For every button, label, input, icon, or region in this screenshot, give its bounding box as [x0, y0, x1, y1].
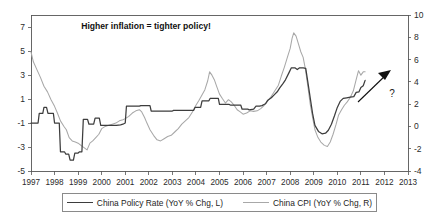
x-tick-label: 2004 [187, 178, 206, 187]
x-tick-label: 2007 [258, 178, 277, 187]
right-tick-label: 8 [414, 32, 419, 42]
left-tick-label: 1 [20, 94, 25, 104]
left-tick-label: 7 [20, 22, 25, 32]
x-tick-label: 2008 [281, 178, 300, 187]
right-tick-label: 4 [414, 77, 419, 87]
x-tick-label: 1998 [45, 178, 64, 187]
chart-container: 7531-1-3-5 1086420-2-4 19971998199920002… [0, 0, 439, 221]
x-tick-label: 2009 [305, 178, 324, 187]
x-tick-label: 1999 [69, 178, 88, 187]
x-tick-label: 2011 [352, 178, 370, 187]
legend-label-cpi: China CPI (YoY % Chg, R) [273, 198, 372, 208]
x-tick-label: 2005 [210, 178, 229, 187]
left-tick-label: -5 [17, 166, 25, 176]
x-tick-label: 2013 [399, 178, 418, 187]
left-tick-label: 3 [20, 70, 25, 80]
right-tick-label: 2 [414, 99, 419, 109]
right-tick-label: 10 [414, 10, 424, 20]
right-tick-label: -4 [414, 166, 422, 176]
series-line-china-policy-rate [31, 68, 365, 160]
legend-item-china-cpi: China CPI (YoY % Chg, R) [243, 198, 372, 208]
x-tick-label: 2010 [328, 178, 347, 187]
right-tick-label: -2 [414, 144, 422, 154]
right-axis-ticks: 1086420-2-4 [408, 10, 424, 176]
left-tick-label: -3 [17, 142, 25, 152]
x-axis-ticks: 1997199819992000200120022003200420052006… [22, 171, 418, 187]
chart-canvas: 7531-1-3-5 1086420-2-4 19971998199920002… [0, 0, 439, 221]
legend-swatch-cpi-icon [243, 202, 269, 203]
legend-label-policy: China Policy Rate (YoY % Chg, L) [97, 198, 223, 208]
x-tick-label: 2012 [375, 178, 394, 187]
series-line-china-cpi [31, 33, 365, 150]
legend-swatch-policy-icon [67, 202, 93, 203]
x-tick-label: 2006 [234, 178, 253, 187]
x-tick-label: 2001 [116, 178, 135, 187]
legend-item-china-policy-rate: China Policy Rate (YoY % Chg, L) [67, 198, 223, 208]
left-tick-label: 5 [20, 46, 25, 56]
annotation-label: Higher inflation = tighter policy! [81, 21, 211, 31]
x-tick-label: 2000 [93, 178, 112, 187]
x-tick-label: 2003 [163, 178, 182, 187]
x-tick-label: 1997 [22, 178, 41, 187]
left-tick-label: -1 [17, 118, 25, 128]
right-tick-label: 0 [414, 121, 419, 131]
left-axis-ticks: 7531-1-3-5 [17, 22, 31, 176]
x-tick-label: 2002 [140, 178, 159, 187]
question-mark-label: ? [389, 88, 395, 99]
right-tick-label: 6 [414, 55, 419, 65]
chart-legend: China Policy Rate (YoY % Chg, L) China C… [62, 193, 377, 212]
